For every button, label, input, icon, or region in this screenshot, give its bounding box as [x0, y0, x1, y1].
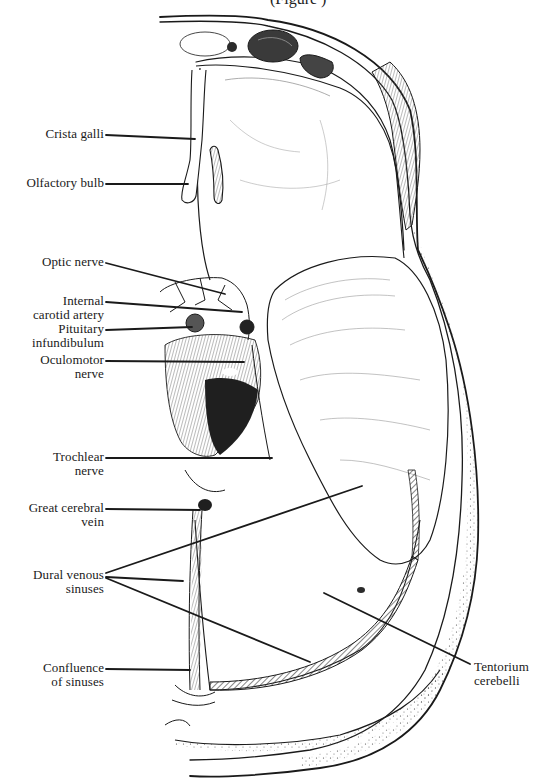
temporalis-band: [372, 62, 420, 230]
label-trochlear-nerve: Trochlear nerve: [53, 450, 104, 478]
anterior-fossa: [196, 65, 404, 280]
leader-lines: [106, 135, 470, 670]
label-tentorium-cerebelli: Tentorium cerebelli: [474, 660, 529, 688]
label-internal-carotid-artery: Internal carotid artery: [33, 294, 104, 322]
leader-pituitary: [106, 327, 192, 330]
leader-crista-galli: [106, 135, 195, 139]
label-great-cerebral-vein: Great cerebral vein: [29, 501, 104, 529]
label-oculomotor-nerve: Oculomotor nerve: [40, 353, 104, 381]
sigmoid-sinus-band: [408, 470, 419, 560]
label-optic-nerve: Optic nerve: [42, 255, 104, 269]
tentorium-outline: [195, 520, 420, 690]
leader-oculomotor: [106, 361, 244, 362]
label-crista-galli: Crista galli: [45, 127, 104, 141]
label-pituitary-infundibulum: Pituitary infundibulum: [32, 322, 104, 350]
occipital-bone: [175, 670, 440, 745]
label-olfactory-bulb: Olfactory bulb: [26, 176, 104, 190]
leader-confluence: [106, 669, 190, 670]
leader-optic-nerve: [106, 263, 225, 294]
label-confluence-of-sinuses: Confluence of sinuses: [43, 661, 104, 689]
leader-dural-1: [106, 486, 362, 573]
leader-internal-carotid: [106, 302, 242, 312]
confluence: [165, 685, 215, 726]
cerebral-hemisphere: [267, 257, 448, 564]
leader-dural-3: [106, 578, 310, 662]
label-dural-venous-sinuses: Dural venous sinuses: [33, 568, 104, 596]
hemisphere-shading: [282, 279, 430, 480]
leader-great-cerebral-vein: [106, 509, 200, 510]
leader-dural-2: [106, 577, 183, 581]
